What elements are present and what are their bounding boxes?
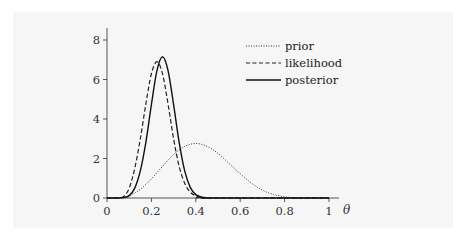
x-axis-label: θ <box>343 203 351 217</box>
x-tick-label: 0 <box>103 204 110 218</box>
x-tick-label: 0.4 <box>187 204 205 218</box>
x-tick-label: 0.2 <box>142 204 160 218</box>
y-tick-label: 0 <box>93 191 100 205</box>
y-tick-label: 4 <box>93 112 100 126</box>
legend-label: likelihood <box>285 56 343 70</box>
legend-label: prior <box>285 39 314 53</box>
legend-item-likelihood: likelihood <box>246 56 343 70</box>
legend-item-posterior: posterior <box>246 73 339 87</box>
x-tick-label: 1 <box>325 204 332 218</box>
legend-label: posterior <box>285 73 339 87</box>
x-tick-label: 0.6 <box>231 204 249 218</box>
y-ticks: 02468 <box>93 33 107 205</box>
y-tick-label: 6 <box>93 73 100 87</box>
y-tick-label: 2 <box>93 152 100 166</box>
legend: prior likelihood posterior <box>246 39 343 87</box>
chart: 02468 00.20.40.60.81 θ prior likelihood … <box>0 0 467 240</box>
x-tick-label: 0.8 <box>275 204 293 218</box>
x-ticks: 00.20.40.60.81 <box>103 198 332 218</box>
y-tick-label: 8 <box>93 33 100 47</box>
legend-item-prior: prior <box>246 39 314 53</box>
